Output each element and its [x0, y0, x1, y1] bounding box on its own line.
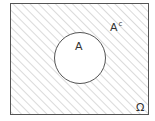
venn-diagram: A Ac Ω — [0, 0, 155, 121]
universe-label: Ω — [136, 101, 144, 114]
set-a-label: A — [75, 40, 83, 53]
